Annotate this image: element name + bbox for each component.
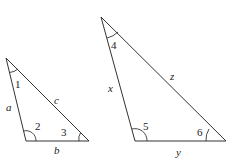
right-triangle: 4 5 6 x z y bbox=[101, 17, 226, 158]
angle-3-label: 3 bbox=[61, 126, 67, 138]
right-triangle-outline bbox=[101, 17, 226, 141]
angle-2-label: 2 bbox=[35, 120, 41, 132]
side-b-label: b bbox=[54, 144, 60, 156]
side-c-label: c bbox=[54, 94, 59, 106]
angle-4-label: 4 bbox=[111, 39, 117, 51]
side-y-label: y bbox=[175, 146, 181, 158]
left-triangle-outline bbox=[6, 58, 89, 141]
angle-6-label: 6 bbox=[197, 126, 203, 138]
angle-1-label: 1 bbox=[15, 78, 21, 90]
angle-3-arc bbox=[79, 133, 81, 141]
angle-1-arc bbox=[10, 69, 19, 73]
angle-6-arc bbox=[206, 129, 209, 141]
side-z-label: z bbox=[169, 70, 175, 82]
angle-5-label: 5 bbox=[143, 120, 149, 132]
left-triangle: 1 2 3 a c b bbox=[6, 58, 89, 156]
side-a-label: a bbox=[6, 101, 12, 113]
side-x-label: x bbox=[107, 82, 113, 94]
triangles-diagram: 1 2 3 a c b 4 5 6 x z y bbox=[0, 0, 238, 168]
